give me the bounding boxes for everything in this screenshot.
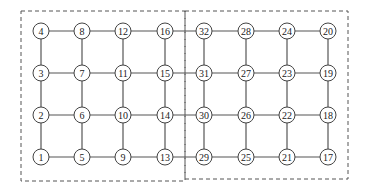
node-label: 30 [199, 110, 209, 121]
node-label: 7 [80, 68, 85, 79]
node-16: 16 [157, 23, 173, 39]
node-label: 6 [80, 110, 85, 121]
node-label: 2 [39, 110, 44, 121]
node-8: 8 [74, 23, 90, 39]
node-label: 9 [121, 152, 126, 163]
node-label: 32 [199, 26, 209, 37]
node-label: 1 [39, 152, 44, 163]
node-23: 23 [279, 65, 295, 81]
node-label: 18 [323, 110, 333, 121]
node-32: 32 [196, 23, 212, 39]
node-label: 23 [282, 68, 292, 79]
node-2: 2 [33, 107, 49, 123]
node-label: 24 [282, 26, 292, 37]
node-21: 21 [279, 149, 295, 165]
mesh-diagram: 4812163228242037111531272319261014302622… [0, 0, 367, 187]
node-label: 10 [118, 110, 128, 121]
node-25: 25 [238, 149, 254, 165]
node-label: 20 [323, 26, 333, 37]
node-label: 31 [199, 68, 209, 79]
node-19: 19 [320, 65, 336, 81]
node-label: 17 [323, 152, 333, 163]
node-30: 30 [196, 107, 212, 123]
node-3: 3 [33, 65, 49, 81]
node-6: 6 [74, 107, 90, 123]
node-label: 13 [160, 152, 170, 163]
node-29: 29 [196, 149, 212, 165]
node-22: 22 [279, 107, 295, 123]
node-label: 5 [80, 152, 85, 163]
node-1: 1 [33, 149, 49, 165]
node-label: 4 [39, 26, 44, 37]
node-13: 13 [157, 149, 173, 165]
node-label: 3 [39, 68, 44, 79]
node-27: 27 [238, 65, 254, 81]
node-label: 14 [160, 110, 170, 121]
node-7: 7 [74, 65, 90, 81]
node-label: 27 [241, 68, 251, 79]
node-15: 15 [157, 65, 173, 81]
node-10: 10 [115, 107, 131, 123]
node-20: 20 [320, 23, 336, 39]
node-5: 5 [74, 149, 90, 165]
node-label: 26 [241, 110, 251, 121]
node-28: 28 [238, 23, 254, 39]
node-label: 12 [118, 26, 128, 37]
node-label: 16 [160, 26, 170, 37]
node-14: 14 [157, 107, 173, 123]
node-12: 12 [115, 23, 131, 39]
node-label: 19 [323, 68, 333, 79]
node-31: 31 [196, 65, 212, 81]
node-label: 29 [199, 152, 209, 163]
node-18: 18 [320, 107, 336, 123]
node-label: 11 [118, 68, 128, 79]
node-label: 15 [160, 68, 170, 79]
node-label: 8 [80, 26, 85, 37]
node-label: 25 [241, 152, 251, 163]
partition-boxes [21, 11, 348, 181]
node-26: 26 [238, 107, 254, 123]
node-11: 11 [115, 65, 131, 81]
node-9: 9 [115, 149, 131, 165]
node-24: 24 [279, 23, 295, 39]
node-17: 17 [320, 149, 336, 165]
node-label: 21 [282, 152, 292, 163]
node-label: 28 [241, 26, 251, 37]
node-label: 22 [282, 110, 292, 121]
node-4: 4 [33, 23, 49, 39]
